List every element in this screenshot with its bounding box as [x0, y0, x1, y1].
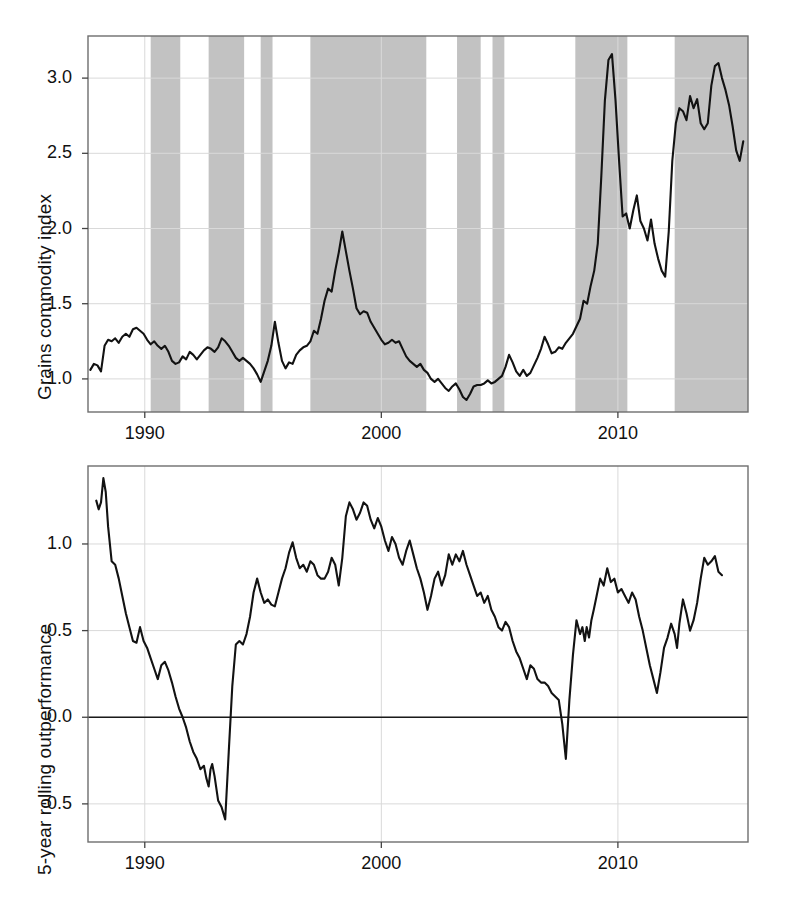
y-tick-label: 0.0: [10, 706, 72, 727]
y-tick-label: 1.0: [10, 368, 72, 389]
data-series-line: [96, 478, 722, 819]
x-tick-label: 2010: [578, 423, 658, 444]
shaded-band: [261, 36, 273, 412]
y-tick-label: 0.5: [10, 620, 72, 641]
y-tick-label: 2.0: [10, 218, 72, 239]
plot-area-bottom: [0, 450, 789, 901]
x-tick-label: 1990: [105, 423, 185, 444]
x-tick-label: 2010: [578, 853, 658, 874]
y-tick-label: -0.5: [10, 793, 72, 814]
y-tick-label: 3.0: [10, 67, 72, 88]
plot-frame: [88, 466, 748, 842]
shaded-band: [151, 36, 181, 412]
shaded-band: [457, 36, 481, 412]
x-tick-label: 2000: [341, 853, 421, 874]
shaded-band: [493, 36, 505, 412]
y-tick-label: 1.0: [10, 533, 72, 554]
x-tick-label: 2000: [341, 423, 421, 444]
y-tick-label: 1.5: [10, 293, 72, 314]
shaded-band: [209, 36, 244, 412]
shaded-band: [310, 36, 426, 412]
caption-strip: [0, 875, 789, 901]
y-tick-label: 2.5: [10, 142, 72, 163]
x-tick-label: 1990: [105, 853, 185, 874]
panel-rolling-outperformance: 5-year rolling outperformance -0.50.00.5…: [0, 450, 789, 901]
panel-grains-commodity-index: Grains commodity index 1.01.52.02.53.019…: [0, 0, 789, 450]
plot-area-top: [0, 0, 789, 450]
y-axis-title-bottom: 5-year rolling outperformance: [34, 624, 56, 875]
shaded-band: [575, 36, 627, 412]
figure-container: Grains commodity index 1.01.52.02.53.019…: [0, 0, 789, 901]
